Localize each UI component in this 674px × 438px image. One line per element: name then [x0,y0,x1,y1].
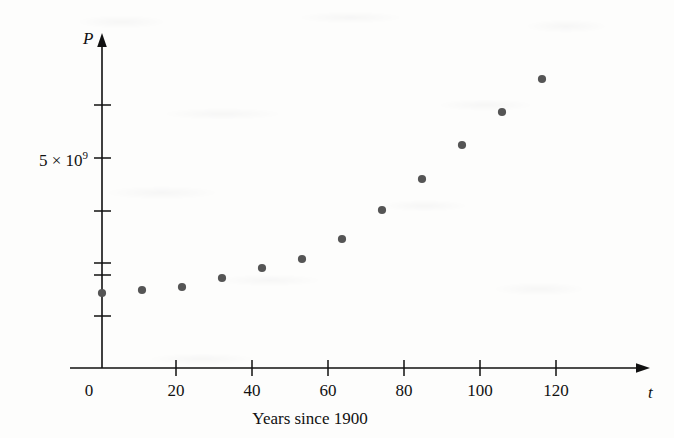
data-point [338,235,346,243]
x-tick-label-80: 80 [388,382,420,399]
x-tick-label-40: 40 [236,382,268,399]
data-point [138,286,146,294]
data-point [538,75,546,83]
data-point [218,274,226,282]
data-point [98,289,106,297]
data-point [378,206,386,214]
data-point [298,255,306,263]
x-axis-caption: Years since 1900 [200,410,420,427]
y-axis-tick-label: 5 × 109 [0,150,88,169]
population-scatter-figure: P t 5 × 109 0 20 40 60 80 100 120 Years … [0,0,674,438]
x-tick-label-120: 120 [535,382,577,399]
y-axis [97,33,107,368]
x-axis-name: t [648,384,653,401]
y-label-mantissa: 5 × 10 [39,151,83,170]
y-label-exponent: 9 [83,149,89,161]
x-axis [70,363,650,373]
data-point [258,264,266,272]
data-point [178,283,186,291]
data-point [498,108,506,116]
x-tick-label-100: 100 [459,382,501,399]
y-axis-name: P [83,30,93,47]
x-tick-label-20: 20 [160,382,192,399]
data-point-group [98,75,546,297]
data-point [418,175,426,183]
x-tick-label-0: 0 [78,382,100,399]
plot-canvas [0,0,674,438]
data-point [458,141,466,149]
x-tick-label-60: 60 [312,382,344,399]
